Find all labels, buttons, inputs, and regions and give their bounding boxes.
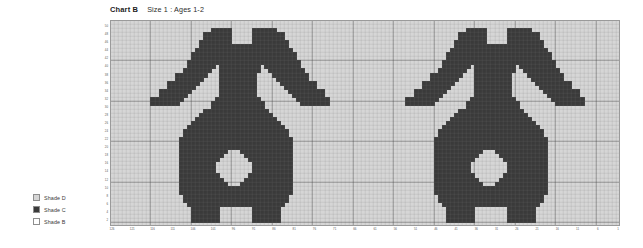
empty-swatch	[33, 218, 40, 225]
y-axis-tick-label: 28	[105, 113, 108, 116]
y-axis-tick-label: 16	[105, 162, 108, 165]
legend-item-label: Shade C	[44, 207, 66, 213]
y-axis-tick-label: 50	[105, 25, 108, 28]
y-axis-tick-label: 40	[105, 65, 108, 68]
x-axis-tick-label: 51	[414, 228, 417, 231]
legend-item[interactable]: Shade C	[33, 206, 66, 213]
x-axis-tick-label: 66	[353, 228, 356, 231]
y-axis-tick-label: 22	[105, 138, 108, 141]
legend-item[interactable]: Shade B	[33, 218, 66, 225]
x-axis-ticks: 1261211161111061019691868176716661565146…	[110, 228, 620, 236]
y-axis-tick-label: 26	[105, 122, 108, 125]
y-axis-tick-label: 44	[105, 49, 108, 52]
y-axis-tick-label: 4	[106, 210, 108, 213]
x-axis-tick-label: 96	[232, 228, 235, 231]
x-axis-tick-label: 126	[110, 228, 115, 231]
y-axis-tick-label: 20	[105, 146, 108, 149]
x-axis-tick-label: 31	[495, 228, 498, 231]
chart-plot-area[interactable]	[110, 20, 620, 226]
y-axis-tick-label: 24	[105, 130, 108, 133]
x-axis-tick-label: 41	[454, 228, 457, 231]
chart-legend: Shade DShade CShade B	[33, 194, 66, 225]
y-axis-ticks: 5048464442403836343230282624222018161412…	[97, 20, 109, 226]
chart-title-row: Chart B Size 1 : Ages 1-2	[110, 5, 204, 14]
y-axis-tick-label: 2	[106, 218, 108, 221]
y-axis-tick-label: 36	[105, 81, 108, 84]
x-axis-tick-label: 101	[211, 228, 216, 231]
x-axis-tick-label: 11	[576, 228, 579, 231]
x-axis-tick-label: 71	[333, 228, 336, 231]
y-axis-tick-label: 32	[105, 97, 108, 100]
x-axis-tick-label: 21	[535, 228, 538, 231]
x-axis-tick-label: 61	[374, 228, 377, 231]
y-axis-tick-label: 46	[105, 41, 108, 44]
y-axis-tick-label: 42	[105, 57, 108, 60]
y-axis-tick-label: 30	[105, 105, 108, 108]
y-axis-tick-label: 6	[106, 202, 108, 205]
x-axis-tick-label: 36	[475, 228, 478, 231]
dark-swatch	[33, 206, 40, 213]
x-axis-tick-label: 91	[252, 228, 255, 231]
y-axis-tick-label: 38	[105, 73, 108, 76]
chart-page: Chart B Size 1 : Ages 1-2 Shade DShade C…	[0, 0, 643, 248]
x-axis-tick-label: 1	[617, 228, 619, 231]
light-swatch	[33, 194, 40, 201]
y-axis-tick-label: 12	[105, 178, 108, 181]
x-axis-tick-label: 86	[272, 228, 275, 231]
pattern-grid-canvas[interactable]	[110, 20, 620, 226]
y-axis-tick-label: 14	[105, 170, 108, 173]
x-axis-tick-label: 116	[150, 228, 155, 231]
x-axis-tick-label: 26	[515, 228, 518, 231]
y-axis-tick-label: 8	[106, 194, 108, 197]
x-axis-tick-label: 111	[171, 228, 175, 231]
x-axis-tick-label: 121	[130, 228, 135, 231]
x-axis-tick-label: 106	[191, 228, 196, 231]
x-axis-tick-label: 16	[556, 228, 559, 231]
legend-item[interactable]: Shade D	[33, 194, 66, 201]
page-title: Chart B	[110, 5, 138, 14]
x-axis-tick-label: 56	[394, 228, 397, 231]
legend-item-label: Shade D	[44, 195, 66, 201]
x-axis-tick-label: 76	[313, 228, 316, 231]
x-axis-tick-label: 6	[597, 228, 599, 231]
y-axis-tick-label: 18	[105, 154, 108, 157]
y-axis-tick-label: 48	[105, 33, 108, 36]
y-axis-tick-label: 34	[105, 89, 108, 92]
y-axis-tick-label: 10	[105, 186, 108, 189]
chart-subtitle: Size 1 : Ages 1-2	[147, 5, 204, 14]
x-axis-tick-label: 81	[293, 228, 296, 231]
x-axis-tick-label: 46	[434, 228, 437, 231]
legend-item-label: Shade B	[44, 219, 65, 225]
